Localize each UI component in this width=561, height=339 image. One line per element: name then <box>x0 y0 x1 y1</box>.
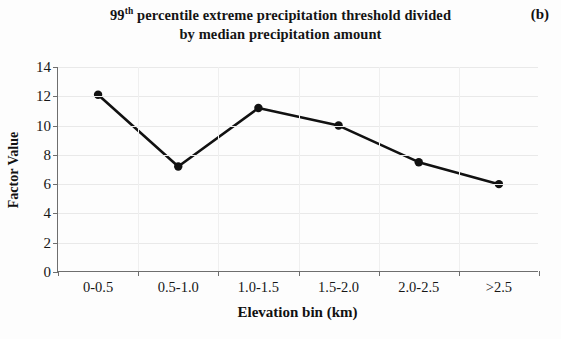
x-axis-tick-label: 0-0.5 <box>83 279 113 296</box>
x-axis-tick <box>218 271 219 276</box>
y-axis-tick-label: 6 <box>44 176 52 193</box>
chart-title-line-1: 99th percentile extreme precipitation th… <box>0 6 561 25</box>
chart-title-superscript: th <box>125 6 134 16</box>
y-axis-tick-label: 8 <box>44 146 52 163</box>
data-point-marker: 2.0-2.5: 7.5 <box>415 158 423 166</box>
x-axis-tick-label: 1.5-2.0 <box>318 279 359 296</box>
y-axis-tick <box>53 155 58 156</box>
x-axis-tick <box>459 271 460 276</box>
y-axis-tick-label: 2 <box>44 234 52 251</box>
y-axis-tick-label: 12 <box>36 88 51 105</box>
x-axis-tick-label: >2.5 <box>486 279 512 296</box>
y-axis-tick <box>53 213 58 214</box>
x-axis-tick-label: 1.0-1.5 <box>238 279 279 296</box>
y-axis-tick <box>53 96 58 97</box>
x-gridline <box>218 67 219 271</box>
data-point-marker: 0-0.5: 12.1 <box>94 91 102 99</box>
x-gridline <box>138 67 139 271</box>
y-axis-tick <box>53 126 58 127</box>
plot-area: 0-0.5: 12.10.5-1.0: 7.21.0-1.5: 11.21.5-… <box>57 67 538 272</box>
y-axis-tick <box>53 184 58 185</box>
y-axis-title: Factor Value <box>6 95 22 245</box>
x-axis-tick-label: 0.5-1.0 <box>158 279 199 296</box>
y-axis-tick-label: 14 <box>36 59 51 76</box>
y-axis-tick-label: 4 <box>44 205 52 222</box>
x-gridline <box>379 67 380 271</box>
chart-title-rest: percentile extreme precipitation thresho… <box>133 7 451 23</box>
x-axis-tick <box>539 271 540 276</box>
y-axis-tick-label: 10 <box>36 117 51 134</box>
x-axis-tick <box>138 271 139 276</box>
x-gridline <box>459 67 460 271</box>
y-axis-tick <box>53 67 58 68</box>
chart-title-prefix: 99 <box>110 7 125 23</box>
data-point-marker: 1.0-1.5: 11.2 <box>254 104 262 112</box>
x-axis-tick <box>58 271 59 276</box>
y-axis-tick <box>53 243 58 244</box>
x-axis-title: Elevation bin (km) <box>57 304 538 321</box>
x-axis-tick <box>379 271 380 276</box>
chart-title-line-2: by median precipitation amount <box>0 25 561 44</box>
chart-title: 99th percentile extreme precipitation th… <box>0 6 561 44</box>
x-gridline <box>299 67 300 271</box>
figure-panel-b: 99th percentile extreme precipitation th… <box>0 0 561 339</box>
data-point-marker: 0.5-1.0: 7.2 <box>174 162 182 170</box>
y-axis-tick-label: 0 <box>44 264 52 281</box>
x-axis-tick <box>299 271 300 276</box>
panel-label: (b) <box>531 6 549 23</box>
x-axis-tick-label: 2.0-2.5 <box>398 279 439 296</box>
